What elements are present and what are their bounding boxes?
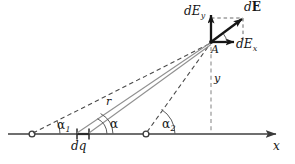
label-dEy: dEy bbox=[184, 5, 205, 20]
r-line-upper bbox=[89, 45, 211, 134]
ray-alpha2-dashed bbox=[147, 44, 210, 132]
r-line-lower bbox=[77, 43, 210, 133]
label-charge-element-dq: dq bbox=[71, 140, 86, 152]
label-axis-x: x bbox=[273, 140, 280, 152]
label-angle-alpha2: α2 bbox=[162, 118, 175, 133]
charge-line-right-endpoint-marker bbox=[143, 131, 149, 137]
label-angle-alpha1: α1 bbox=[57, 119, 70, 134]
label-point-A: A bbox=[211, 44, 219, 55]
label-radius-r: r bbox=[106, 96, 111, 107]
label-dEx: dEx bbox=[236, 38, 257, 53]
diagram-canvas bbox=[0, 0, 295, 164]
radius-vector-r bbox=[77, 43, 211, 133]
physics-diagram-electric-field: dEy dE dEx A y r α1 α α2 dq x bbox=[0, 0, 295, 164]
label-dE-vector: dE bbox=[244, 1, 261, 13]
label-angle-alpha: α bbox=[110, 118, 118, 133]
angle-arc-at-point-A bbox=[224, 34, 228, 42]
label-distance-y: y bbox=[214, 73, 220, 84]
dq-element-ticks bbox=[77, 129, 89, 140]
